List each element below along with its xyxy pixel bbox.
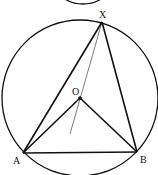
label-x: X: [99, 9, 107, 20]
triangle-segments: [23, 22, 137, 153]
label-b: B: [140, 154, 147, 165]
segment-ab: [23, 152, 137, 153]
segment-ob: [80, 98, 137, 152]
line-through-x-and-o: [70, 22, 102, 134]
top-arc-fragment: [61, 0, 105, 4]
diagram-canvas: X O A B: [0, 0, 158, 175]
segment-xb: [102, 22, 137, 152]
label-o: O: [72, 86, 79, 97]
geometry-diagram: X O A B: [0, 0, 158, 175]
label-a: A: [13, 155, 21, 166]
segment-xa: [23, 22, 102, 153]
